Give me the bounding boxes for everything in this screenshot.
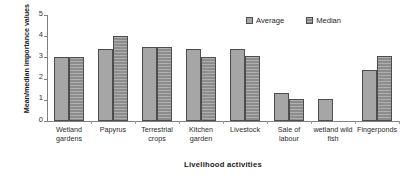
bar-wetland-gardens-median: [69, 57, 84, 121]
bar-wetland-wild-fish-average: [318, 99, 333, 121]
bar-group-livestock: [223, 15, 267, 121]
x-tick-label-wetland-gardens: Wetlandgardens: [47, 125, 91, 143]
bar-group-wetland-gardens: [47, 15, 91, 121]
bar-kitchen-garden-median: [201, 57, 216, 121]
bar-group-papyrus: [91, 15, 135, 121]
bar-papyrus-median: [113, 36, 128, 121]
y-tick-label-2: 2: [39, 73, 43, 81]
x-tick-label-kitchen-garden: Kitchengarden: [179, 125, 223, 143]
x-tick-label-fingerponds: Fingerponds: [355, 125, 399, 134]
bar-group-sale-of-labour: [267, 15, 311, 121]
plot-area: 0 1 2 3 4 5 WetlandgardensPapyrusTerrest…: [47, 15, 399, 121]
x-axis-title: Livelihood activities: [47, 160, 399, 169]
x-axis-separator-2: [135, 121, 136, 124]
bar-sale-of-labour-median: [289, 99, 304, 121]
bar-terrestrial-crops-median: [157, 47, 172, 121]
x-axis-separator-7: [355, 121, 356, 124]
bar-group-kitchen-garden: [179, 15, 223, 121]
bar-livestock-median: [245, 56, 260, 121]
x-tick-label-terrestrial-crops: Terrestrialcrops: [135, 125, 179, 143]
x-axis-separator-8: [399, 121, 400, 124]
x-axis-separator-4: [223, 121, 224, 124]
bar-papyrus-average: [98, 49, 113, 121]
bar-kitchen-garden-average: [186, 49, 201, 121]
y-tick-label-0: 0: [39, 116, 43, 124]
bar-sale-of-labour-average: [274, 93, 289, 121]
y-tick-label-3: 3: [39, 52, 43, 60]
x-axis-separator-1: [91, 121, 92, 124]
x-axis-separator-5: [267, 121, 268, 124]
bar-group-wetland-wild-fish: [311, 15, 355, 121]
x-tick-label-papyrus: Papyrus: [91, 125, 135, 134]
bar-chart-figure: Mean/median importance values Average Me…: [0, 0, 412, 182]
y-tick-label-4: 4: [39, 31, 43, 39]
bar-livestock-average: [230, 49, 245, 121]
y-axis-title: Mean/median importance values: [23, 0, 30, 119]
x-axis-separator-3: [179, 121, 180, 124]
bar-group-fingerponds: [355, 15, 399, 121]
x-tick-label-sale-of-labour: Sale oflabour: [267, 125, 311, 143]
bar-fingerponds-median: [377, 56, 392, 121]
bar-wetland-gardens-average: [54, 57, 69, 121]
bar-terrestrial-crops-average: [142, 47, 157, 121]
x-tick-label-livestock: Livestock: [223, 125, 267, 134]
bar-group-terrestrial-crops: [135, 15, 179, 121]
y-tick-label-1: 1: [39, 94, 43, 102]
x-axis-separator-6: [311, 121, 312, 124]
bar-fingerponds-average: [362, 70, 377, 121]
x-tick-label-wetland-wild-fish: wetland wildfish: [311, 125, 355, 143]
y-tick-label-5: 5: [39, 10, 43, 18]
